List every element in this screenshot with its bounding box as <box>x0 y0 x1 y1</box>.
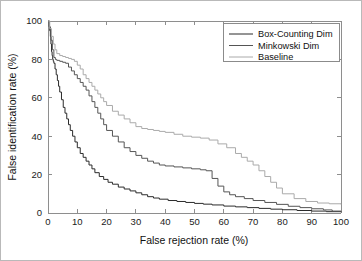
x-tick-label: 20 <box>101 216 112 227</box>
x-tick-label: 100 <box>333 216 349 227</box>
x-tick-label: 10 <box>72 216 83 227</box>
x-tick-label: 0 <box>45 216 50 227</box>
x-tick-label: 30 <box>131 216 142 227</box>
legend-label-0: Box-Counting Dim <box>258 29 333 39</box>
legend-label-2: Baseline <box>258 52 293 62</box>
x-tick-label: 90 <box>306 216 317 227</box>
y-tick-label: 40 <box>31 131 42 142</box>
y-tick-label: 100 <box>26 15 42 26</box>
y-tick-label: 80 <box>31 54 42 65</box>
x-tick-label: 80 <box>277 216 288 227</box>
x-tick-label: 40 <box>160 216 171 227</box>
roc-chart: 0102030405060708090100 020406080100 Fals… <box>1 1 362 261</box>
legend: Box-Counting DimMinkowski DimBaseline <box>224 24 340 63</box>
y-tick-label: 20 <box>31 169 42 180</box>
legend-label-1: Minkowski Dim <box>258 41 320 51</box>
y-axis-title: False identification rate (%) <box>6 53 18 180</box>
x-tick-label: 70 <box>248 216 259 227</box>
y-tick-label: 60 <box>31 92 42 103</box>
x-tick-label: 50 <box>189 216 200 227</box>
x-tick-label: 60 <box>219 216 230 227</box>
figure-container: 0102030405060708090100 020406080100 Fals… <box>0 0 362 261</box>
y-tick-label: 0 <box>37 207 42 218</box>
x-axis-title: False rejection rate (%) <box>140 234 249 246</box>
